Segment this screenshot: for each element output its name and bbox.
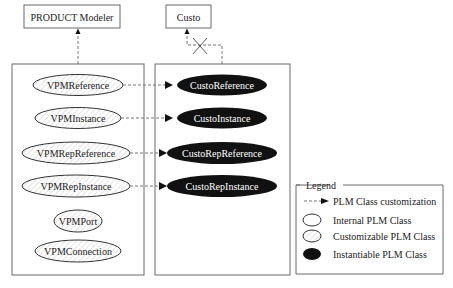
svg-text:VPMConnection: VPMConnection bbox=[44, 246, 112, 257]
svg-text:Instantiable PLM Class: Instantiable PLM Class bbox=[333, 249, 427, 260]
legend-item-instantiable: Instantiable PLM Class bbox=[303, 248, 427, 260]
black-ellipse-icon bbox=[303, 248, 321, 260]
legend-item-internal: Internal PLM Class bbox=[303, 214, 411, 226]
legend-title: Legend bbox=[306, 180, 336, 191]
class-custorepreference[interactable]: CustoRepReference bbox=[167, 142, 277, 164]
legend-item-customizable: Customizable PLM Class bbox=[303, 230, 435, 242]
custo-box: Custo bbox=[166, 5, 211, 28]
class-vpmport[interactable]: VPMPort bbox=[54, 210, 102, 232]
class-vpmrepreference[interactable]: VPMRepReference bbox=[22, 142, 130, 164]
class-vpmconnection[interactable]: VPMConnection bbox=[35, 240, 121, 262]
class-custoinstance[interactable]: CustoInstance bbox=[177, 108, 267, 129]
dashed-arrow-icon bbox=[321, 198, 329, 204]
svg-text:VPMInstance: VPMInstance bbox=[51, 113, 107, 124]
svg-text:VPMRepReference: VPMRepReference bbox=[37, 148, 116, 159]
class-vpmrepinstance[interactable]: VPMRepInstance bbox=[22, 175, 130, 197]
class-custoreference[interactable]: CustoReference bbox=[177, 75, 267, 96]
svg-text:CustoRepReference: CustoRepReference bbox=[182, 148, 263, 159]
class-custorepinstance[interactable]: CustoRepInstance bbox=[167, 175, 277, 197]
svg-text:CustoRepInstance: CustoRepInstance bbox=[186, 181, 259, 192]
plm-customization-diagram: PRODUCT Modeler Custo VPMReference VPMIn… bbox=[0, 0, 453, 288]
legend-item-customization: PLM Class customization bbox=[304, 196, 436, 207]
svg-text:PLM Class customization: PLM Class customization bbox=[333, 196, 436, 207]
svg-text:VPMPort: VPMPort bbox=[59, 216, 98, 227]
hatched-ellipse-icon bbox=[303, 230, 321, 242]
svg-text:VPMReference: VPMReference bbox=[47, 80, 110, 91]
custo-label: Custo bbox=[177, 12, 200, 23]
class-vpmreference[interactable]: VPMReference bbox=[33, 75, 123, 96]
custo-dependency-arrow-crossed bbox=[185, 29, 223, 65]
svg-text:Internal PLM Class: Internal PLM Class bbox=[333, 215, 411, 226]
svg-text:VPMRepInstance: VPMRepInstance bbox=[40, 181, 112, 192]
svg-text:CustoReference: CustoReference bbox=[190, 80, 254, 91]
svg-text:Customizable PLM Class: Customizable PLM Class bbox=[333, 231, 435, 242]
white-ellipse-icon bbox=[303, 214, 321, 226]
product-modeler-box: PRODUCT Modeler bbox=[24, 5, 120, 28]
middle-panel bbox=[155, 64, 290, 275]
product-modeler-label: PRODUCT Modeler bbox=[31, 12, 115, 23]
product-modeler-dependency-arrow bbox=[76, 29, 81, 65]
svg-text:CustoInstance: CustoInstance bbox=[194, 113, 251, 124]
class-vpminstance[interactable]: VPMInstance bbox=[35, 108, 121, 129]
legend: Legend PLM Class customization Internal … bbox=[296, 180, 443, 275]
